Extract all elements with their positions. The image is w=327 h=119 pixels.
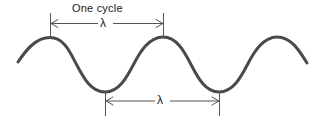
lambda-label-bottom: λ (157, 94, 163, 106)
wave-curve (18, 37, 307, 92)
wave-diagram-canvas (0, 0, 327, 119)
top-measurement-group (51, 13, 164, 38)
lambda-label-top: λ (100, 17, 106, 29)
wave-diagram: One cycle λ λ (0, 0, 327, 119)
one-cycle-label: One cycle (72, 2, 123, 15)
